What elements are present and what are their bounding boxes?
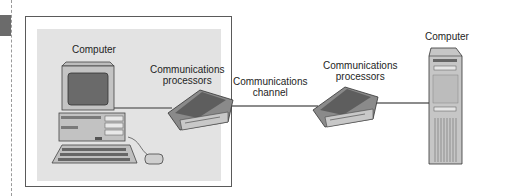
- label-channel: Communications channel: [233, 76, 307, 98]
- diagram-canvas: [0, 0, 512, 196]
- label-processor-left-line2: processors: [150, 75, 224, 86]
- label-computer-right: Computer: [425, 31, 469, 42]
- label-processor-left: Communications processors: [150, 64, 224, 86]
- label-channel-line1: Communications: [233, 76, 307, 87]
- modem-icon-left: [168, 90, 233, 130]
- tower-computer-icon: [429, 48, 462, 164]
- desktop-computer-icon: [52, 62, 163, 164]
- label-processor-right-line1: Communications: [323, 60, 397, 71]
- label-channel-line2: channel: [233, 87, 307, 98]
- label-processor-left-line1: Communications: [150, 64, 224, 75]
- modem-icon-right: [313, 87, 378, 127]
- label-computer-left: Computer: [72, 44, 116, 55]
- label-processor-right-line2: processors: [323, 71, 397, 82]
- label-processor-right: Communications processors: [323, 60, 397, 82]
- channel-line: [82, 103, 430, 108]
